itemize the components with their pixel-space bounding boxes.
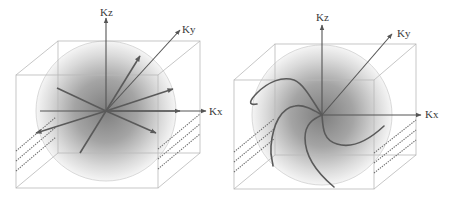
kx-label: Kx: [209, 105, 223, 117]
kx-label: Kx: [425, 108, 439, 120]
ky-label: Ky: [182, 23, 196, 35]
kz-label: Kz: [316, 11, 329, 23]
left-panel: Kz Ky Kx: [16, 6, 223, 188]
right-panel: Kz Ky Kx: [234, 11, 439, 189]
k-space-figure: Kz Ky Kx: [0, 0, 453, 199]
ky-label: Ky: [397, 27, 411, 39]
kz-label: Kz: [100, 6, 113, 18]
